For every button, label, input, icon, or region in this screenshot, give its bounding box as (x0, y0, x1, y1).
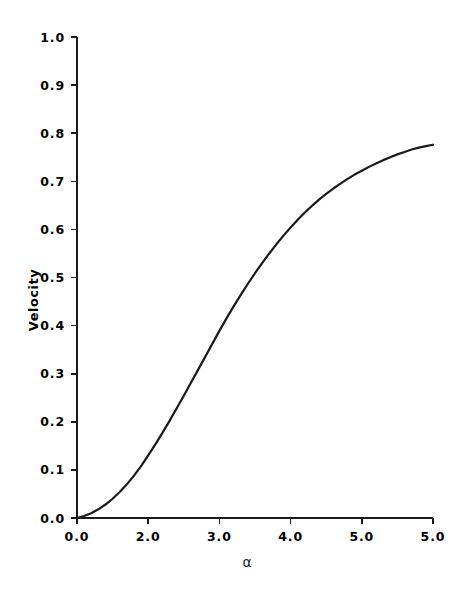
y-tick-label-2: 0.8 (40, 126, 65, 141)
chart-container: 1.00.90.80.70.60.50.40.30.20.10.0 0.02.0… (0, 0, 467, 596)
chart-background (0, 0, 467, 596)
y-axis-title: Velocity (26, 269, 41, 331)
y-tick-label-7: 0.3 (40, 366, 65, 381)
y-tick-label-4: 0.6 (40, 222, 65, 237)
y-tick-label-3: 0.7 (40, 174, 65, 189)
velocity-vs-alpha-chart: 1.00.90.80.70.60.50.40.30.20.10.0 0.02.0… (0, 0, 467, 596)
x-tick-label-4: 5.0 (349, 529, 374, 544)
x-tick-label-0: 0.0 (65, 529, 90, 544)
y-tick-label-10: 0.0 (40, 511, 65, 526)
x-tick-label-end: 5.0 (421, 529, 446, 544)
x-tick-label-3: 4.0 (278, 529, 303, 544)
y-tick-label-5: 0.5 (40, 270, 65, 285)
y-tick-label-6: 0.4 (40, 318, 65, 333)
x-axis-title: α (242, 554, 251, 570)
y-tick-label-9: 0.1 (40, 462, 65, 477)
y-tick-label-8: 0.2 (40, 414, 65, 429)
y-tick-label-0: 1.0 (40, 30, 65, 45)
y-tick-label-1: 0.9 (40, 78, 65, 93)
x-tick-label-1: 2.0 (136, 529, 161, 544)
x-tick-label-2: 3.0 (207, 529, 232, 544)
